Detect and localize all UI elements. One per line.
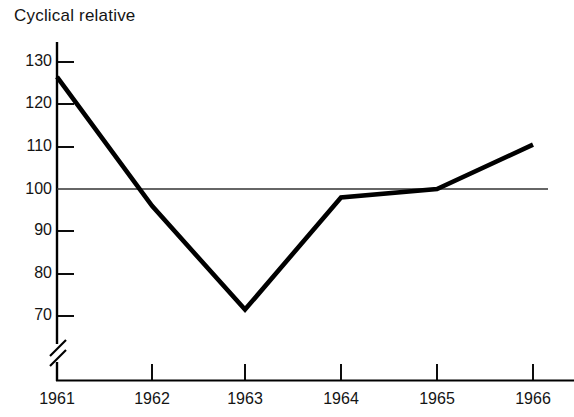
x-tick-label-1963: 1963 (210, 390, 280, 408)
x-tick-label-1962: 1962 (117, 390, 187, 408)
y-tick-label-90: 90 (8, 221, 52, 239)
y-tick-label-110: 110 (8, 137, 52, 155)
x-tick-label-1964: 1964 (306, 390, 376, 408)
x-tick-label-1961: 1961 (22, 390, 92, 408)
y-tick-label-130: 130 (8, 52, 52, 70)
y-tick-label-100: 100 (8, 180, 52, 198)
data-series-line (57, 77, 533, 310)
x-tick-marks (152, 364, 533, 380)
y-tick-label-80: 80 (8, 264, 52, 282)
x-tick-label-1965: 1965 (402, 390, 472, 408)
x-tick-label-1966: 1966 (498, 390, 568, 408)
chart-plot-area (0, 0, 574, 417)
y-tick-label-70: 70 (8, 306, 52, 324)
y-tick-label-120: 120 (8, 94, 52, 112)
chart-container: Cyclical relative (0, 0, 574, 417)
